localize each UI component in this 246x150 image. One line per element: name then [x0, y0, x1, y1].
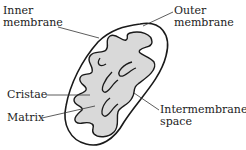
- label-inner-membrane-line2: membrane: [3, 17, 63, 29]
- label-intermembrane-space: Intermembrane space: [160, 104, 246, 128]
- label-matrix: Matrix: [7, 112, 44, 124]
- label-intermembrane-space-line2: space: [160, 116, 246, 128]
- label-inner-membrane: Inner membrane: [3, 5, 63, 29]
- label-outer-membrane-line2: membrane: [174, 17, 234, 29]
- label-outer-membrane: Outer membrane: [174, 5, 234, 29]
- leader-outer-membrane: [143, 12, 173, 26]
- label-cristae: Cristae: [7, 89, 47, 101]
- leader-inner-membrane: [58, 27, 99, 38]
